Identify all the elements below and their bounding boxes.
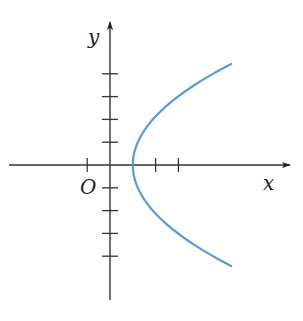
y-axis-label: y — [87, 25, 100, 49]
axes — [9, 22, 290, 300]
chart: x y O — [0, 0, 303, 321]
origin-label: O — [80, 175, 96, 199]
x-axis-label: x — [263, 171, 274, 195]
